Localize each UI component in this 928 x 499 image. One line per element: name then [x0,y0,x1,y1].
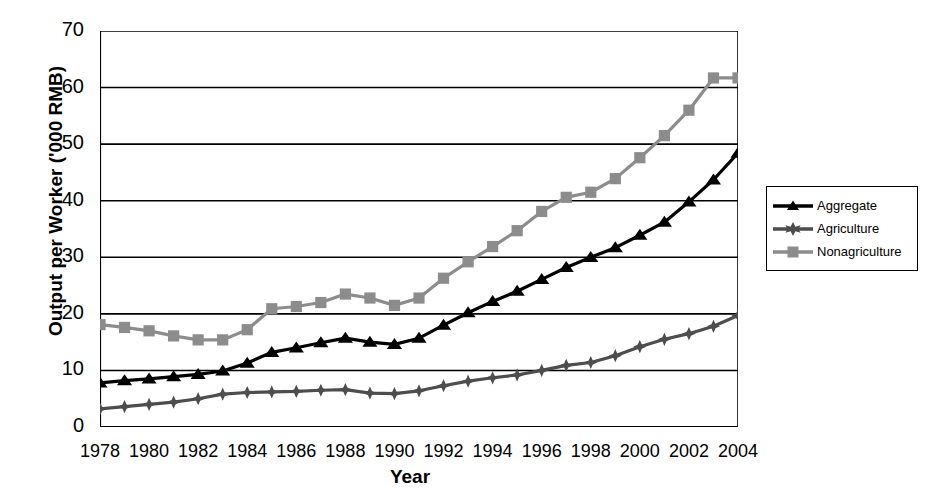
chart-canvas [100,31,738,427]
x-tick-label: 1980 [122,441,176,462]
x-tick-label: 1996 [515,441,569,462]
x-axis-title: Year [100,466,720,488]
y-tick-label: 20 [28,301,84,324]
legend-label-aggregate: Aggregate [814,198,877,213]
x-tick-label: 1994 [466,441,520,462]
legend-item-aggregate: Aggregate [772,194,911,217]
x-tick-label: 1990 [367,441,421,462]
x-tick-label: 2004 [711,441,765,462]
x-tick-label: 1988 [318,441,372,462]
x-tick-label: 1986 [269,441,323,462]
x-tick-label: 1982 [171,441,225,462]
legend-label-agriculture: Agriculture [814,221,879,236]
legend-key-aggregate-icon [772,197,814,215]
y-tick-label: 60 [28,75,84,98]
y-tick-label: 70 [28,18,84,41]
x-tick-label: 2002 [662,441,716,462]
legend-item-nonagriculture: Nonagriculture [772,240,911,263]
x-tick-label: 1978 [73,441,127,462]
legend-key-nonagriculture-icon [772,243,814,261]
chart-figure: Output per Worker ('000 RMB) Year 010203… [0,0,928,499]
y-tick-label: 30 [28,244,84,267]
plot-area [100,31,738,427]
y-tick-label: 10 [28,357,84,380]
x-tick-label: 1984 [220,441,274,462]
x-tick-label: 1998 [564,441,618,462]
chart-legend: Aggregate Agriculture Nonagriculture [766,186,918,271]
y-tick-label: 0 [28,414,84,437]
legend-item-agriculture: Agriculture [772,217,911,240]
legend-label-nonagriculture: Nonagriculture [814,244,902,259]
legend-key-agriculture-icon [772,220,814,238]
y-tick-label: 50 [28,131,84,154]
x-tick-label: 1992 [417,441,471,462]
x-tick-label: 2000 [613,441,667,462]
y-tick-label: 40 [28,188,84,211]
